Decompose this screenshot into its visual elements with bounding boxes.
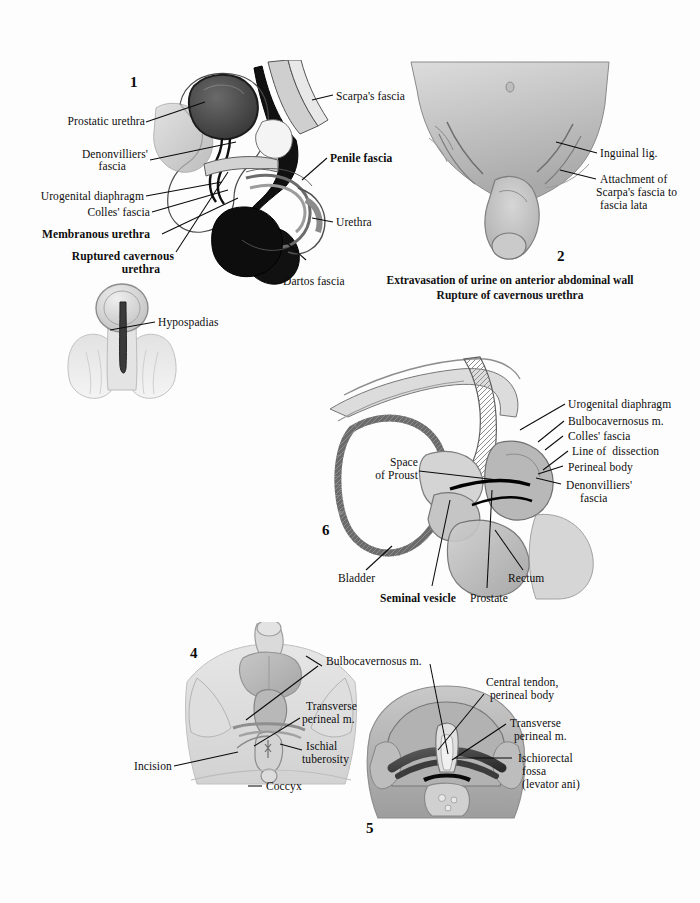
figure-2-caption-line-2: Rupture of cavernous urethra: [360, 288, 660, 303]
figure-number-2: 2: [557, 248, 565, 265]
figure-number-6: 6: [322, 522, 330, 539]
label-ruptured-cavernous-urethra-2: urethra: [0, 263, 160, 276]
label-hypospadias: Hypospadias: [158, 316, 219, 329]
label-line-of-dissection: Line of dissection: [572, 445, 659, 458]
label-space-of-proust-2: of Proust: [340, 469, 418, 482]
label-penile-fascia: Penile fascia: [330, 152, 392, 165]
figure-3-hypospadias-artwork: [62, 282, 182, 402]
label-urethra-1: Urethra: [336, 216, 372, 229]
figure-number-4: 4: [190, 645, 198, 662]
label-transverse-perineal-4b: perineal m.: [302, 713, 355, 726]
label-seminal-vesicle: Seminal vesicle: [380, 592, 456, 605]
figure-number-5: 5: [366, 820, 374, 837]
label-incision: Incision: [134, 760, 172, 773]
label-denonvilliers-fascia-1b: fascia: [0, 160, 126, 173]
label-bladder: Bladder: [338, 572, 375, 585]
label-transverse-perineal-5a: Transverse: [510, 717, 561, 730]
label-space-of-proust-1: Space: [340, 456, 418, 469]
figure-1-artwork: [150, 60, 335, 305]
label-ischiorectal-fossa-c: (levator ani): [522, 778, 580, 791]
figure-2-caption-line-1: Extravasation of urine on anterior abdom…: [360, 273, 660, 288]
label-ischiorectal-fossa-b: fossa: [522, 765, 546, 778]
label-rectum: Rectum: [508, 572, 544, 585]
label-attachment-scarpas-2: Scarpa's fascia to: [596, 186, 677, 199]
label-transverse-perineal-4a: Transverse: [306, 700, 357, 713]
label-prostatic-urethra: Prostatic urethra: [0, 115, 145, 128]
label-ischiorectal-fossa-a: Ischiorectal: [518, 752, 573, 765]
label-scarpas-fascia: Scarpa's fascia: [336, 90, 405, 103]
label-denonvilliers-fascia-6a: Denonvilliers': [566, 479, 632, 492]
label-central-tendon-a: Central tendon,: [486, 676, 558, 689]
label-ischial-tuberosity-a: Ischial: [306, 740, 337, 753]
label-prostate: Prostate: [470, 592, 508, 605]
label-ruptured-cavernous-urethra-1: Ruptured cavernous: [0, 250, 174, 263]
label-urogenital-diaphragm-1: Urogenital diaphragm: [0, 190, 144, 203]
label-inguinal-ligament: Inguinal lig.: [600, 147, 658, 160]
label-ischial-tuberosity-b: tuberosity: [302, 753, 349, 766]
label-perineal-body-6: Perineal body: [568, 461, 633, 474]
figure-2-artwork: [395, 60, 625, 265]
label-membranous-urethra: Membranous urethra: [0, 228, 150, 241]
figure-number-1: 1: [130, 74, 138, 91]
label-denonvilliers-fascia-6b: fascia: [580, 492, 607, 505]
label-urogenital-diaphragm-6: Urogenital diaphragm: [568, 398, 671, 411]
label-attachment-scarpas-1: Attachment of: [600, 173, 667, 186]
label-bulbocavernosus-6: Bulbocavernosus m.: [568, 415, 664, 428]
plate-page: 1 2 6 4 5 Prostatic urethra Denonvillier…: [0, 0, 700, 903]
label-transverse-perineal-5b: perineal m.: [514, 730, 567, 743]
label-denonvilliers-fascia-1: Denonvilliers': [0, 148, 148, 161]
label-colles-fascia-6: Colles' fascia: [568, 430, 631, 443]
label-colles-fascia-1: Colles' fascia: [0, 206, 150, 219]
label-central-tendon-b: perineal body: [490, 689, 554, 702]
label-coccyx: Coccyx: [266, 780, 302, 793]
label-dartos-fascia: Dartos fascia: [283, 275, 345, 288]
label-attachment-scarpas-3: fascia lata: [600, 199, 647, 212]
label-bulbocavernosus-4: Bulbocavernosus m.: [326, 655, 422, 668]
